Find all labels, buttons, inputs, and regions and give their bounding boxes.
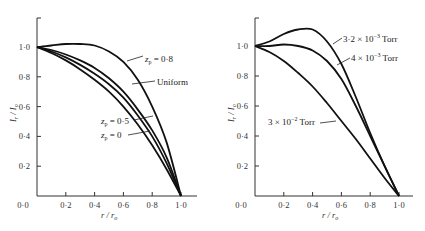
x-tick-label: 0·8: [147, 200, 158, 210]
right-annotation-4e-3: 4 × 10−3 Torr: [351, 52, 398, 63]
right-x-axis-title: r / ro: [322, 210, 338, 221]
y-tick-label: 0·6: [237, 101, 248, 111]
x-tick-label: 0·0: [17, 200, 28, 210]
left-x-axis-title: r / ro: [101, 210, 117, 221]
annotation-leader-line: [127, 56, 143, 61]
left-chart-panel: 0·20·40·60·81·00·00·20·40·60·81·0 zp = 0…: [8, 18, 197, 221]
y-tick-label: 0·4: [237, 131, 249, 141]
y-tick-label: 0·2: [237, 161, 248, 171]
x-tick-label: 0·6: [118, 200, 129, 210]
y-tick-label: 0·2: [19, 161, 30, 171]
right-annotation-3e-2: 3 × 10−2 Torr: [268, 116, 315, 127]
y-tick-label: 0·8: [19, 72, 30, 82]
x-tick-label: 0·6: [336, 200, 347, 210]
right-annotation-32e-3: 3·2 × 10−3 Torr: [343, 33, 397, 44]
annotation-leader-line: [320, 121, 336, 123]
y-tick-label: 0·8: [237, 71, 248, 81]
y-tick-label: 1·0: [19, 42, 30, 52]
left-annotation-zp05: zp = 0·5: [100, 116, 130, 127]
x-tick-label: 0·2: [278, 200, 289, 210]
left-annotation-uniform: Uniform: [157, 77, 188, 87]
left-annotation-zp08: zp = 0·8: [144, 54, 174, 65]
chart-figure: 0·20·40·60·81·00·00·20·40·60·81·0 zp = 0…: [0, 0, 425, 231]
x-tick-label: 0·0: [235, 200, 246, 210]
left-annotation-zp0: zp = 0: [100, 130, 122, 141]
left-annotation-leaders: [127, 56, 155, 135]
annotation-leader-line: [128, 131, 150, 135]
right-tick-labels: 0·20·40·60·81·00·00·20·40·60·81·0: [235, 41, 404, 210]
right-chart-panel: 0·20·40·60·81·00·00·20·40·60·81·0 3·2 × …: [226, 18, 413, 221]
left-y-axis-title: Ir / Io: [8, 104, 19, 123]
annotation-leader-line: [132, 81, 155, 84]
x-tick-label: 0·4: [307, 200, 319, 210]
x-tick-label: 0·8: [365, 200, 376, 210]
right-y-axis-title: Ir / Io: [226, 104, 237, 123]
y-tick-label: 0·6: [19, 102, 30, 112]
y-tick-label: 0·4: [19, 131, 31, 141]
annotation-leader-line: [333, 38, 342, 44]
x-tick-label: 1·0: [393, 200, 404, 210]
y-tick-label: 1·0: [237, 41, 248, 51]
x-tick-label: 0·4: [89, 200, 101, 210]
right-annotation-leaders: [320, 38, 350, 123]
x-tick-label: 0·2: [60, 200, 71, 210]
x-tick-label: 1·0: [175, 200, 186, 210]
